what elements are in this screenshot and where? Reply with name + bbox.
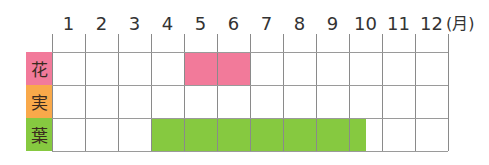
unit-label: (月) [446, 14, 474, 34]
grid-hline [52, 52, 448, 53]
month-label-1: 1 [52, 14, 85, 34]
month-label-4: 4 [151, 14, 184, 34]
month-label-12: 12 [415, 14, 448, 34]
month-label-8: 8 [283, 14, 316, 34]
grid-hline [52, 118, 448, 119]
month-label-10: 10 [349, 14, 382, 34]
month-label-5: 5 [184, 14, 217, 34]
row-label-0: 花 [26, 52, 52, 85]
grid-hline [52, 151, 448, 152]
grid-vline [448, 34, 449, 151]
month-label-3: 3 [118, 14, 151, 34]
row-label-1: 実 [26, 85, 52, 118]
grid-hline [52, 85, 448, 86]
month-label-7: 7 [250, 14, 283, 34]
month-label-2: 2 [85, 14, 118, 34]
month-label-6: 6 [217, 14, 250, 34]
row-label-2: 葉 [26, 118, 52, 151]
phenology-calendar-chart: 123456789101112 (月) 花実葉 [0, 0, 489, 165]
month-label-11: 11 [382, 14, 415, 34]
month-label-9: 9 [316, 14, 349, 34]
